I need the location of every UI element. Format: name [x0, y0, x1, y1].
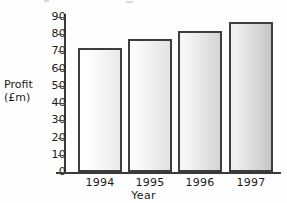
- x-axis-line: [56, 172, 281, 174]
- y-tick-mark: [58, 120, 66, 121]
- x-tick-label: 1994: [78, 176, 122, 189]
- y-tick-mark: [58, 103, 66, 104]
- x-tick-label: 1995: [128, 176, 172, 189]
- y-tick-mark: [58, 69, 66, 70]
- x-tick-label: 1997: [229, 176, 273, 189]
- y-axis-title: Profit (£m): [4, 78, 52, 104]
- bar: [78, 48, 122, 172]
- bar: [178, 31, 222, 172]
- bar: [229, 22, 273, 172]
- y-tick-mark: [58, 138, 66, 139]
- y-tick-mark: [58, 172, 66, 173]
- y-tick-mark: [58, 34, 66, 35]
- scan-artifact-mark: [126, 1, 133, 3]
- scan-artifact-mark: [44, 0, 49, 2]
- y-tick-mark: [58, 17, 66, 18]
- plot-area: [66, 14, 281, 172]
- y-tick-mark: [58, 51, 66, 52]
- bar-chart: 9080706050403020100 Profit (£m) 19941995…: [0, 0, 287, 203]
- y-tick-mark: [58, 86, 66, 87]
- bar: [128, 39, 172, 172]
- x-axis-title: Year: [0, 189, 287, 202]
- x-tick-label: 1996: [178, 176, 222, 189]
- y-axis-title-line1: Profit: [4, 78, 33, 91]
- y-axis-title-line2: (£m): [4, 91, 52, 104]
- y-tick-mark: [58, 155, 66, 156]
